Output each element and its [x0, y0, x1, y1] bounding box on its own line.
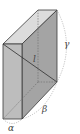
label-alpha: α	[8, 123, 14, 133]
box-diagram: l γ β α	[0, 0, 80, 134]
label-gamma: γ	[64, 39, 70, 49]
label-beta: β	[41, 104, 47, 114]
label-l: l	[33, 54, 36, 64]
